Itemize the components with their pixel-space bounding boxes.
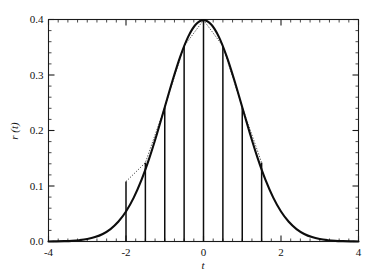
x-tick-label: 0 [201,246,207,258]
figure-background [0,0,378,279]
x-tick-label: -2 [121,246,130,258]
y-tick-label: 0.1 [30,180,44,192]
x-tick-label: 2 [278,246,284,258]
y-tick-label: 0.0 [30,235,44,247]
chart-figure: 0.00.10.20.30.4 -4-2024 t r (t) [0,0,378,279]
x-tick-label: 4 [356,246,362,258]
x-tick-label: -4 [44,246,54,258]
y-tick-label: 0.4 [30,13,44,25]
y-axis-title: r (t) [8,122,21,140]
y-tick-label: 0.2 [30,124,44,136]
gaussian-impulse-plot: 0.00.10.20.30.4 -4-2024 t r (t) [0,0,378,279]
y-tick-label: 0.3 [30,69,44,81]
